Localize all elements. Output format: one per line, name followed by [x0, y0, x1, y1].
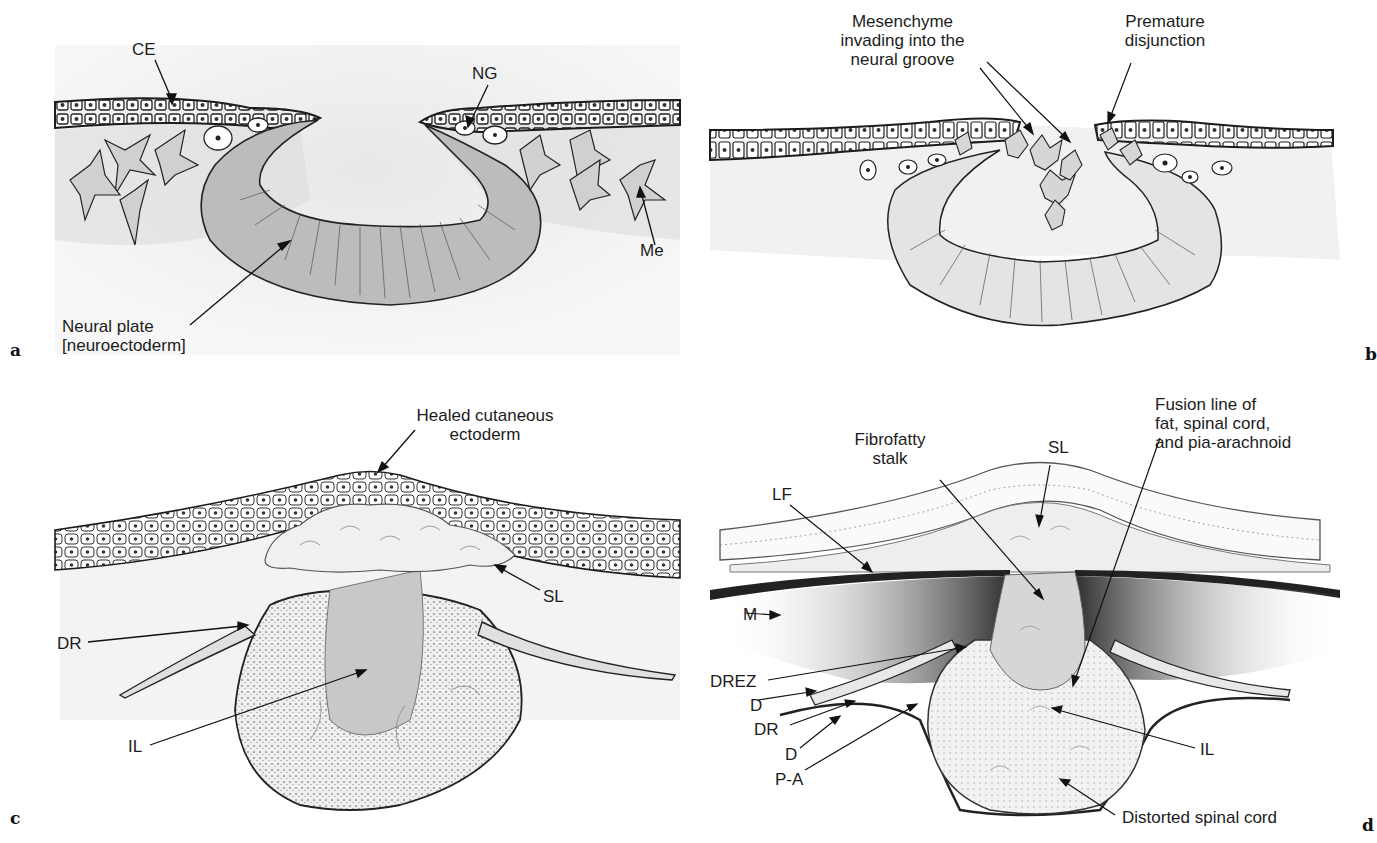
label-distorted-spinal-cord: Distorted spinal cord: [1122, 808, 1277, 827]
label-premature-disjunction: Premature disjunction: [1110, 12, 1220, 50]
panel-letter-b: b: [1365, 344, 1377, 364]
label-fusion-line: Fusion line of fat, spinal cord, and pia…: [1155, 395, 1291, 452]
label-dr: DR: [57, 634, 82, 653]
label-sl: SL: [1048, 438, 1069, 457]
label-m: M: [743, 605, 757, 624]
label-fibrofatty-stalk: Fibrofatty stalk: [840, 430, 940, 468]
label-il: IL: [128, 737, 142, 756]
label-il: IL: [1200, 740, 1214, 759]
panel-letter-d: d: [1362, 815, 1374, 835]
panel-letter-a: a: [10, 340, 21, 360]
label-d-upper: D: [750, 696, 762, 715]
label-d-lower: D: [785, 745, 797, 764]
label-drez: DREZ: [710, 672, 756, 691]
panel-d: Fibrofatty stalk SL Fusion line of fat, …: [690, 390, 1373, 843]
panel-c: Healed cutaneous ectoderm SL DR IL c: [0, 390, 690, 843]
label-mesenchyme-invading: Mesenchyme invading into the neural groo…: [830, 12, 975, 69]
label-me: Me: [640, 241, 664, 260]
neural-plate-illustration: [0, 0, 690, 370]
label-pa: P-A: [775, 770, 803, 789]
label-ce: CE: [132, 40, 156, 59]
premature-disjunction-illustration: [690, 0, 1373, 370]
label-lf: LF: [772, 485, 792, 504]
label-dr: DR: [754, 720, 779, 739]
healed-ectoderm-lipoma-illustration: [0, 390, 690, 843]
label-sl: SL: [543, 587, 564, 606]
label-ng: NG: [472, 64, 498, 83]
panel-b: Mesenchyme invading into the neural groo…: [690, 0, 1373, 370]
label-healed-cutaneous-ectoderm: Healed cutaneous ectoderm: [395, 406, 575, 444]
label-neural-plate: Neural plate [neuroectoderm]: [62, 317, 186, 355]
panel-letter-c: c: [10, 808, 20, 828]
panel-a: CE NG Me Neural plate [neuroectoderm] a: [0, 0, 690, 370]
